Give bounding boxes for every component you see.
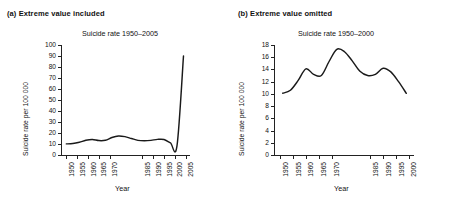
- y-tick-label-b-2: 2: [265, 139, 269, 146]
- x-tick-a-2000: [175, 155, 176, 159]
- x-tick-b-2000: [409, 155, 410, 159]
- x-tick-b-1985: [370, 155, 371, 159]
- y-tick-a-100: [58, 45, 62, 46]
- y-tick-b-2: [271, 143, 275, 144]
- panel-b-extreme-value-omitted: (b) Extreme value omitted Suicide rate 1…: [232, 0, 465, 207]
- panel-b-series-line: [283, 49, 407, 94]
- x-tick-label-a-1955: 1955: [80, 162, 87, 177]
- y-tick-a-80: [58, 67, 62, 68]
- y-tick-b-16: [271, 57, 275, 58]
- panel-a-chart-title: Suicide rate 1950–2005: [82, 29, 158, 38]
- y-tick-label-b-14: 14: [262, 66, 269, 73]
- x-tick-b-1950: [280, 155, 281, 159]
- y-tick-b-4: [271, 131, 275, 132]
- y-tick-label-b-12: 12: [262, 78, 269, 85]
- panel-b-y-axis-title: Suicide rate per 100 000: [238, 82, 245, 156]
- y-tick-label-a-80: 80: [49, 64, 56, 71]
- panel-a-series-svg: [62, 45, 191, 156]
- x-tick-a-1995: [164, 155, 165, 159]
- x-tick-b-1995: [396, 155, 397, 159]
- y-tick-a-20: [58, 133, 62, 134]
- x-tick-label-a-1965: 1965: [101, 162, 108, 177]
- x-tick-a-1965: [99, 155, 100, 159]
- y-tick-a-40: [58, 111, 62, 112]
- panel-b-chart-title: Suicide rate 1950–2000: [298, 29, 374, 38]
- x-tick-a-1955: [77, 155, 78, 159]
- x-tick-a-1950: [66, 155, 67, 159]
- panel-b-series-svg: [275, 45, 415, 156]
- y-tick-b-18: [271, 45, 275, 46]
- x-tick-label-a-2005: 2005: [188, 162, 195, 177]
- y-tick-label-a-50: 50: [49, 97, 56, 104]
- x-tick-label-b-1960: 1960: [308, 162, 315, 177]
- x-tick-label-a-2000: 2000: [177, 162, 184, 177]
- x-tick-label-b-1990: 1990: [386, 162, 393, 177]
- x-tick-label-b-2000: 2000: [411, 162, 418, 177]
- x-tick-b-1965: [319, 155, 320, 159]
- panel-a-caption: (a) Extreme value included: [7, 9, 105, 18]
- x-tick-label-b-1955: 1955: [296, 162, 303, 177]
- panel-a-x-axis-title: Year: [115, 184, 130, 193]
- x-tick-label-a-1970: 1970: [112, 162, 119, 177]
- x-tick-a-1960: [88, 155, 89, 159]
- y-tick-b-10: [271, 94, 275, 95]
- y-tick-label-a-0: 0: [52, 152, 56, 159]
- x-tick-b-1955: [293, 155, 294, 159]
- x-tick-b-1970: [332, 155, 333, 159]
- y-tick-label-b-10: 10: [262, 91, 269, 98]
- y-tick-label-a-10: 10: [49, 141, 56, 148]
- y-tick-a-10: [58, 144, 62, 145]
- x-tick-label-a-1995: 1995: [167, 162, 174, 177]
- y-tick-b-8: [271, 106, 275, 107]
- y-tick-label-b-0: 0: [265, 152, 269, 159]
- y-tick-label-a-100: 100: [45, 42, 56, 49]
- y-tick-label-b-16: 16: [262, 54, 269, 61]
- y-tick-a-30: [58, 122, 62, 123]
- x-tick-b-1960: [306, 155, 307, 159]
- panel-a-series-line: [66, 56, 183, 152]
- y-tick-label-a-60: 60: [49, 86, 56, 93]
- x-tick-b-1990: [383, 155, 384, 159]
- y-tick-label-a-90: 90: [49, 53, 56, 60]
- x-tick-a-2005: [186, 155, 187, 159]
- panel-a-plot-area: 0102030405060708090100195019551960196519…: [61, 45, 190, 156]
- y-tick-label-b-18: 18: [262, 42, 269, 49]
- y-tick-b-0: [271, 155, 275, 156]
- x-tick-label-a-1960: 1960: [91, 162, 98, 177]
- y-tick-b-12: [271, 82, 275, 83]
- y-tick-label-b-4: 4: [265, 127, 269, 134]
- x-tick-a-1990: [153, 155, 154, 159]
- panel-b-x-axis-title: Year: [334, 184, 349, 193]
- y-tick-a-90: [58, 56, 62, 57]
- x-tick-label-b-1950: 1950: [283, 162, 290, 177]
- y-tick-a-0: [58, 155, 62, 156]
- panel-b-caption: (b) Extreme value omitted: [238, 9, 332, 18]
- panel-a-extreme-value-included: (a) Extreme value included Suicide rate …: [0, 0, 232, 207]
- y-tick-label-a-70: 70: [49, 75, 56, 82]
- y-tick-a-60: [58, 89, 62, 90]
- y-tick-b-6: [271, 118, 275, 119]
- x-tick-a-1985: [142, 155, 143, 159]
- x-tick-label-a-1990: 1990: [156, 162, 163, 177]
- panel-b-plot-area: 0246810121416181950195519601965197019851…: [274, 45, 414, 156]
- x-tick-label-b-1965: 1965: [321, 162, 328, 177]
- x-tick-label-b-1985: 1985: [373, 162, 380, 177]
- x-tick-label-a-1985: 1985: [145, 162, 152, 177]
- y-tick-b-14: [271, 69, 275, 70]
- x-tick-label-b-1970: 1970: [334, 162, 341, 177]
- y-tick-label-b-6: 6: [265, 115, 269, 122]
- y-tick-label-b-8: 8: [265, 103, 269, 110]
- y-tick-label-a-20: 20: [49, 130, 56, 137]
- y-tick-label-a-30: 30: [49, 119, 56, 126]
- y-tick-label-a-40: 40: [49, 108, 56, 115]
- x-tick-a-1970: [110, 155, 111, 159]
- x-tick-label-b-1995: 1995: [399, 162, 406, 177]
- y-tick-a-70: [58, 78, 62, 79]
- y-tick-a-50: [58, 100, 62, 101]
- figure-suicide-rate-comparison: (a) Extreme value included Suicide rate …: [0, 0, 465, 207]
- x-tick-label-a-1950: 1950: [69, 162, 76, 177]
- panel-a-y-axis-title: Suicide rate per 100 000: [22, 82, 29, 156]
